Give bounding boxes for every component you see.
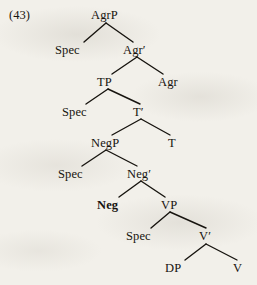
tree-node-agr: Agr [158, 76, 178, 89]
tree-node-spec-tp: Spec [62, 106, 87, 119]
syntax-tree-figure: (43) AgrPSpecAgr′TPAgrSpecT′NegPTSpecNeg… [0, 0, 257, 285]
tree-node-vp: VP [161, 199, 177, 212]
branch-right-agr-bar [137, 57, 163, 74]
branch-right-tp [108, 89, 140, 104]
tree-node-tp: TP [97, 76, 112, 89]
branch-left-agr-bar [112, 57, 137, 74]
tree-node-agr-bar: Agr′ [123, 44, 146, 57]
tree-node-agrp: AgrP [91, 9, 118, 22]
tree-node-spec-negp: Spec [58, 168, 83, 181]
branch-left-agrp [84, 23, 106, 42]
branch-pair-agr-bar [112, 57, 163, 74]
branch-right-negp [106, 150, 137, 166]
branch-pair-agrp [84, 23, 133, 42]
tree-node-neg: Neg [97, 199, 118, 212]
branch-pair-v-bar [185, 244, 237, 260]
branch-pair-t-bar [112, 119, 170, 135]
tree-node-negp: NegP [91, 137, 119, 150]
tree-node-v-bar: V′ [199, 230, 211, 243]
tree-node-spec-agrp: Spec [55, 44, 80, 57]
branch-right-agrp [106, 23, 133, 42]
tree-node-dp: DP [165, 262, 181, 275]
branch-right-v-bar [206, 244, 237, 260]
branch-pair-tp [86, 89, 140, 104]
tree-node-v: V [233, 262, 242, 275]
branch-pair-vp [151, 212, 206, 228]
tree-node-spec-vp: Spec [126, 230, 151, 243]
branch-pair-negp [82, 150, 137, 166]
branch-left-v-bar [185, 244, 206, 260]
tree-node-t-bar: T′ [133, 106, 144, 119]
branch-pair-neg-bar [119, 181, 165, 197]
tree-node-t: T [168, 137, 176, 150]
branch-right-neg-bar [141, 181, 165, 197]
tree-node-neg-bar: Neg′ [127, 168, 151, 181]
branch-left-neg-bar [119, 181, 141, 197]
branch-right-vp [170, 212, 206, 228]
branch-left-negp [82, 150, 106, 166]
branch-right-t-bar [141, 119, 170, 135]
branch-left-t-bar [112, 119, 141, 135]
branch-left-vp [151, 212, 170, 228]
branch-left-tp [86, 89, 108, 104]
